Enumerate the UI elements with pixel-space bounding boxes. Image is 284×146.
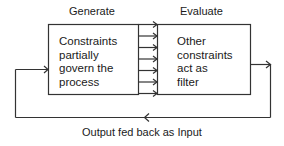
evaluate-body-line: act as [177, 62, 233, 76]
evaluate-body-line: Other [177, 35, 233, 49]
evaluate-body-line: constraints [177, 49, 233, 63]
generate-body-line: process [59, 76, 117, 90]
diagram-canvas [0, 0, 284, 146]
generate-body: Constraints partially govern the process [59, 35, 117, 89]
generate-title: Generate [69, 5, 115, 17]
evaluate-body-line: filter [177, 76, 233, 90]
feedback-label: Output fed back as Input [82, 126, 202, 138]
generate-body-line: partially [59, 49, 117, 63]
connector-arrows [139, 22, 158, 97]
generate-body-line: govern the [59, 62, 117, 76]
output-arrow [251, 61, 271, 118]
evaluate-body: Other constraints act as filter [177, 35, 233, 89]
evaluate-title: Evaluate [180, 5, 223, 17]
generate-body-line: Constraints [59, 35, 117, 49]
